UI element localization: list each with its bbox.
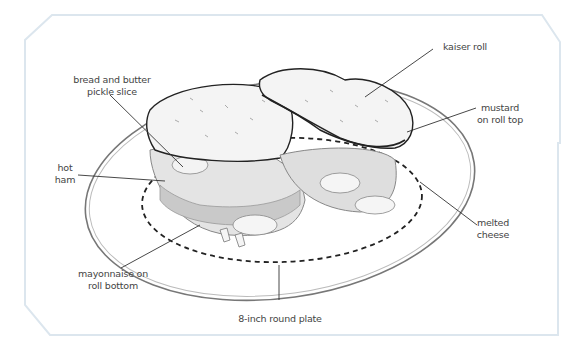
label-plate: 8-inch round plate: [225, 313, 335, 325]
label-pickle-slice: bread and butter pickle slice: [62, 74, 162, 98]
label-ham-line2: ham: [50, 174, 80, 186]
label-pickle-line2: pickle slice: [62, 86, 162, 98]
label-mustard-line1: mustard: [470, 102, 530, 114]
label-hot-ham: hot ham: [50, 162, 80, 186]
label-kaiser-line: kaiser roll: [430, 41, 500, 53]
label-mayo-line2: roll bottom: [68, 280, 158, 292]
label-cheese-line2: cheese: [470, 229, 516, 241]
label-mayo-line1: mayonnaise on: [68, 268, 158, 280]
label-mayonnaise: mayonnaise on roll bottom: [68, 268, 158, 292]
label-cheese-line1: melted: [470, 217, 516, 229]
label-melted-cheese: melted cheese: [470, 217, 516, 241]
label-ham-line1: hot: [50, 162, 80, 174]
diagram-illustration: [0, 0, 566, 364]
label-plate-line: 8-inch round plate: [225, 313, 335, 325]
label-mustard: mustard on roll top: [470, 102, 530, 126]
label-pickle-line1: bread and butter: [62, 74, 162, 86]
label-kaiser-roll: kaiser roll: [430, 41, 500, 53]
label-mustard-line2: on roll top: [470, 114, 530, 126]
